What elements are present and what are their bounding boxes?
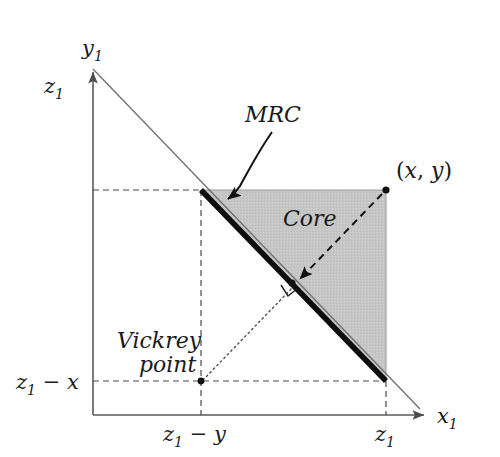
point-xy-label: (x, y) [396, 158, 452, 183]
vickrey-point-label-line1: Vickrey [117, 328, 202, 353]
vickrey-point-dot [198, 378, 205, 385]
tick-label-y-z1-minus-x: z1 − x [15, 370, 79, 398]
tick-label-y-z1: z1 [43, 74, 64, 102]
mrc-pointer-arrow [228, 132, 272, 199]
core-label: Core [283, 206, 337, 231]
point-xy-dot [382, 186, 389, 193]
figure-canvas: y1 z1 z1 − x x1 z1 z1 − y MRC Core Vickr… [0, 0, 500, 457]
diagram-svg: y1 z1 z1 − x x1 z1 z1 − y MRC Core Vickr… [0, 0, 500, 457]
mrc-label: MRC [244, 102, 301, 127]
vickrey-perpendicular-dotted-line [203, 287, 293, 380]
x-axis-label: x1 [437, 404, 458, 432]
vickrey-point-label-line2: point [139, 352, 197, 377]
y-axis-label: y1 [81, 36, 103, 64]
tick-label-x-z1: z1 [374, 422, 395, 450]
perp-foot-dot [288, 279, 295, 286]
tick-label-x-z1-minus-y: z1 − y [162, 422, 227, 450]
